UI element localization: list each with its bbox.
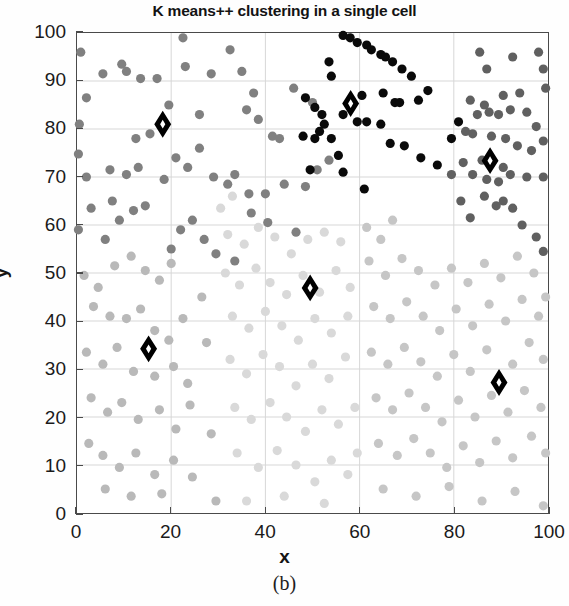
- data-point: [197, 292, 206, 301]
- data-point: [200, 235, 209, 244]
- data-point: [244, 189, 253, 198]
- y-tick-label: 70: [22, 167, 66, 186]
- data-point: [94, 283, 103, 292]
- data-point: [110, 261, 119, 270]
- data-point: [101, 235, 110, 244]
- data-point: [539, 172, 548, 181]
- data-point: [169, 362, 178, 371]
- data-point: [230, 403, 239, 412]
- data-point: [388, 405, 397, 414]
- data-point: [447, 264, 456, 273]
- data-point: [317, 110, 326, 119]
- data-point: [412, 492, 421, 501]
- data-point: [320, 499, 329, 508]
- data-point: [407, 72, 416, 81]
- data-point: [301, 427, 310, 436]
- data-point: [532, 122, 541, 131]
- data-point: [195, 110, 204, 119]
- data-point: [273, 446, 282, 455]
- data-point: [242, 105, 251, 114]
- data-point: [301, 182, 310, 191]
- data-point: [539, 355, 548, 364]
- data-point: [518, 220, 527, 229]
- data-point: [145, 129, 154, 138]
- data-point: [487, 132, 496, 141]
- data-point: [430, 280, 439, 289]
- data-point: [181, 62, 190, 71]
- data-point: [178, 314, 187, 323]
- data-point: [103, 408, 112, 417]
- data-point: [275, 134, 284, 143]
- y-tick-mark: [76, 176, 83, 177]
- data-point: [426, 448, 435, 457]
- data-point: [409, 434, 418, 443]
- data-point: [336, 237, 345, 246]
- plot-area: [76, 32, 549, 514]
- data-point: [291, 460, 300, 469]
- data-point: [534, 312, 543, 321]
- data-point: [188, 472, 197, 481]
- data-point: [395, 98, 404, 107]
- data-point: [225, 45, 234, 54]
- y-tick-mark: [76, 369, 83, 370]
- data-point: [343, 470, 352, 479]
- data-point: [308, 360, 317, 369]
- data-point: [176, 225, 185, 234]
- data-point: [270, 232, 279, 241]
- data-point: [437, 417, 446, 426]
- data-point: [122, 170, 131, 179]
- data-point: [98, 451, 107, 460]
- data-point: [525, 338, 534, 347]
- data-point: [376, 120, 385, 129]
- data-point: [468, 129, 477, 138]
- data-point: [282, 290, 291, 299]
- data-point: [195, 144, 204, 153]
- data-point: [327, 134, 336, 143]
- data-point: [223, 230, 232, 239]
- data-point: [362, 223, 371, 232]
- data-point: [98, 360, 107, 369]
- y-tick-label: 0: [22, 504, 66, 523]
- x-tick-mark: [75, 507, 76, 514]
- data-point: [150, 372, 159, 381]
- data-point: [74, 149, 83, 158]
- data-point: [534, 48, 543, 57]
- data-point: [360, 184, 369, 193]
- data-point: [501, 316, 510, 325]
- data-point: [499, 163, 508, 172]
- data-point: [289, 84, 298, 93]
- data-point: [287, 249, 296, 258]
- data-point: [230, 256, 239, 265]
- data-point: [482, 345, 491, 354]
- data-point: [522, 108, 531, 117]
- data-point: [317, 405, 326, 414]
- data-point: [508, 204, 517, 213]
- data-point: [454, 117, 463, 126]
- figure-panel: K means++ clustering in a single cell 01…: [0, 0, 569, 606]
- data-point: [466, 96, 475, 105]
- data-point: [277, 321, 286, 330]
- data-point: [129, 206, 138, 215]
- data-point: [470, 412, 479, 421]
- data-point: [254, 463, 263, 472]
- data-point: [310, 134, 319, 143]
- data-point: [494, 177, 503, 186]
- data-point: [515, 88, 524, 97]
- data-point: [280, 180, 289, 189]
- data-point: [89, 302, 98, 311]
- data-point: [416, 153, 425, 162]
- data-point: [254, 223, 263, 232]
- data-point: [101, 484, 110, 493]
- data-point: [228, 312, 237, 321]
- data-point: [477, 496, 486, 505]
- data-point: [261, 307, 270, 316]
- data-point: [254, 115, 263, 124]
- x-tick-mark: [265, 507, 266, 514]
- data-point: [541, 292, 550, 301]
- data-point: [506, 170, 515, 179]
- data-point: [499, 196, 508, 205]
- data-point: [228, 192, 237, 201]
- data-point: [376, 235, 385, 244]
- data-point: [150, 326, 159, 335]
- data-point: [105, 165, 114, 174]
